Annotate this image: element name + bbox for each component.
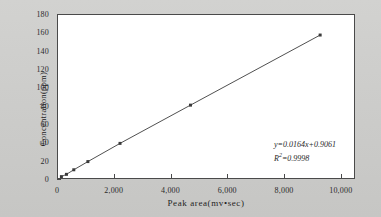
- x-tick-label: 10,000: [329, 186, 352, 195]
- regression-annotation: y=0.0164x+0.9061 R2=0.9998: [274, 139, 336, 164]
- x-tick-mark: [57, 174, 58, 178]
- x-tick-mark: [114, 174, 115, 178]
- data-point-marker: [65, 173, 68, 176]
- x-tick-label: 8,000: [275, 186, 294, 195]
- y-axis-tick-group: 020406080100120140160180: [0, 14, 57, 179]
- x-tick-mark: [341, 174, 342, 178]
- x-tick-mark: [171, 174, 172, 178]
- data-point-marker: [86, 160, 89, 163]
- x-tick-mark: [284, 174, 285, 178]
- x-tick-label: 2,000: [104, 186, 123, 195]
- regression-equation: y=0.0164x+0.9061: [274, 139, 336, 150]
- y-tick-label: 140: [36, 46, 49, 55]
- y-tick-label: 100: [36, 83, 49, 92]
- y-tick-label: 20: [41, 156, 49, 165]
- y-tick-label: 40: [41, 138, 49, 147]
- data-point-marker: [72, 168, 75, 171]
- chart-figure: Concentration(ppm) 020406080100120140160…: [0, 0, 381, 217]
- x-axis-title: Peak area(mv•sec): [57, 198, 355, 208]
- r-squared-text: R2=0.9998: [274, 150, 336, 164]
- data-point-marker: [119, 142, 122, 145]
- y-tick-label: 160: [36, 28, 49, 37]
- data-point-marker: [189, 104, 192, 107]
- y-tick-label: 60: [41, 120, 49, 129]
- data-point-marker: [60, 175, 63, 178]
- r-squared-value: =0.9998: [282, 154, 309, 163]
- x-tick-label: 4,000: [161, 186, 180, 195]
- x-tick-label: 0: [55, 186, 59, 195]
- x-tick-mark: [227, 174, 228, 178]
- data-point-marker: [319, 34, 322, 37]
- y-tick-label: 180: [36, 10, 49, 19]
- y-tick-label: 0: [45, 175, 49, 184]
- y-tick-label: 120: [36, 65, 49, 74]
- x-tick-label: 6,000: [218, 186, 237, 195]
- y-tick-label: 80: [41, 101, 49, 110]
